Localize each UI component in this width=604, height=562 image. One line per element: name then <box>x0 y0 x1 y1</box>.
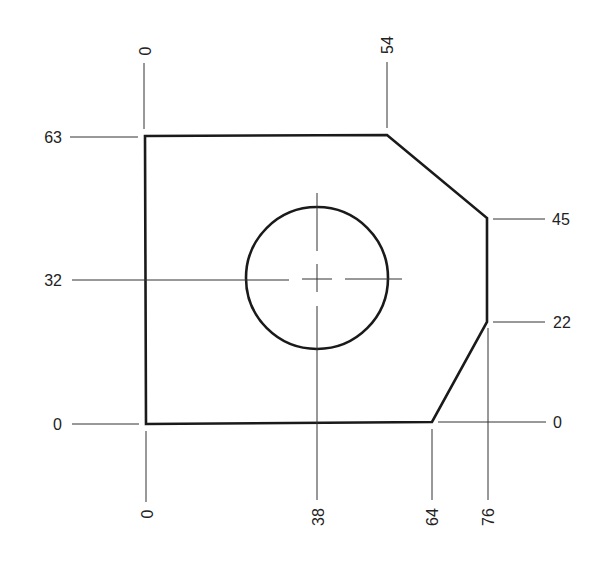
label-right-y45: 45 <box>552 211 570 228</box>
label-left-y0: 0 <box>53 416 62 433</box>
extension-lines <box>70 62 546 502</box>
label-top-x0: 0 <box>137 46 154 55</box>
label-bottom-x38: 38 <box>310 508 327 526</box>
label-left-y32: 32 <box>44 272 62 289</box>
label-left-y63: 63 <box>44 129 62 146</box>
label-bottom-x76: 76 <box>480 508 497 526</box>
label-right-y0: 0 <box>553 414 562 431</box>
part-drawing: 0 54 63 32 0 45 22 0 0 38 64 76 <box>0 0 604 562</box>
label-top-x54: 54 <box>379 36 396 54</box>
label-right-y22: 22 <box>553 314 571 331</box>
label-bottom-x64: 64 <box>424 508 441 526</box>
hole-centerlines <box>72 193 402 500</box>
label-bottom-x0: 0 <box>139 509 156 518</box>
